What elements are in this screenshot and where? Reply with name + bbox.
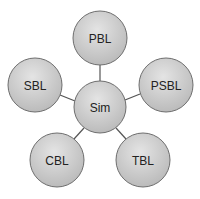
node-pbl: PBL <box>73 11 127 65</box>
node-label: TBL <box>132 154 154 168</box>
node-label: CBL <box>45 154 69 168</box>
node-psbl: PSBL <box>139 58 193 112</box>
node-label: PSBL <box>151 79 182 93</box>
node-label: SBL <box>24 79 47 93</box>
edge-sim-cbl <box>74 128 84 139</box>
center-label: Sim <box>90 101 111 115</box>
node-sbl: SBL <box>8 58 62 112</box>
edge-sim-psbl <box>125 94 140 100</box>
node-tbl: TBL <box>116 133 170 187</box>
edge-sim-sbl <box>60 95 75 101</box>
edge-sim-tbl <box>116 128 126 139</box>
hub-spoke-diagram: PBL SBL PSBL CBL TBL Sim <box>0 0 200 199</box>
node-label: PBL <box>89 32 112 46</box>
node-cbl: CBL <box>30 133 84 187</box>
node-sim-center: Sim <box>74 81 126 133</box>
